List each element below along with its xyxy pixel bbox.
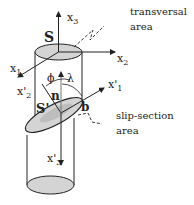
axis-label-x1: x1 bbox=[10, 62, 21, 77]
label-S: S bbox=[44, 29, 54, 45]
label-S-prime: S' bbox=[36, 101, 49, 116]
axis-label-x3-prime: x'3 bbox=[47, 152, 61, 167]
svg-text:x2: x2 bbox=[117, 52, 128, 67]
transversal-area-label-line1: transversal bbox=[130, 6, 187, 17]
axis-label-x2-prime: x'2 bbox=[17, 85, 31, 100]
label-phi: ϕ bbox=[47, 72, 55, 85]
svg-text:x3: x3 bbox=[67, 11, 78, 26]
axis-label-x1-prime: x'1 bbox=[108, 78, 122, 93]
svg-text:x'2: x'2 bbox=[17, 85, 31, 100]
label-n: n bbox=[51, 89, 60, 103]
svg-text:x'1: x'1 bbox=[108, 78, 122, 93]
label-b: b bbox=[81, 100, 89, 114]
slip-system-diagram: x3 x2 x1 x'1 x'2 x'3 S S' n b ϕ λ transv… bbox=[0, 0, 194, 205]
axis-label-x2: x2 bbox=[117, 52, 128, 67]
slip-section-label-line2: area bbox=[116, 125, 139, 136]
svg-text:x1: x1 bbox=[10, 62, 21, 77]
axis-label-x3: x3 bbox=[67, 11, 78, 26]
transversal-area-label-line2: area bbox=[130, 21, 153, 32]
label-lambda: λ bbox=[67, 72, 74, 85]
slip-section-label-line1: slip-section bbox=[116, 110, 174, 121]
svg-text:x'3: x'3 bbox=[47, 152, 61, 167]
